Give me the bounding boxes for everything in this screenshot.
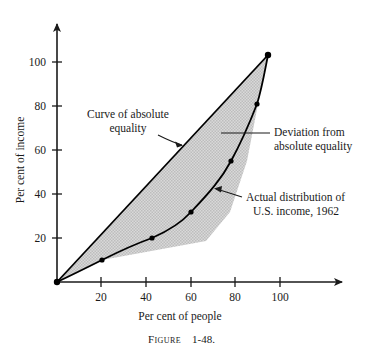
x-axis-tick-labels: 20 40 60 80 100: [95, 291, 289, 303]
figure-caption: Figure 1-48.: [148, 333, 215, 345]
deviation-annotation-line-2: absolute equality: [274, 140, 352, 153]
data-point-92: [254, 101, 259, 106]
x-tick-label-20: 20: [95, 291, 107, 303]
figure-caption-number: 1-48.: [192, 333, 215, 345]
actual-annotation-line-2: U.S. income, 1962: [253, 205, 339, 218]
data-point-20: [99, 257, 104, 262]
figure-caption-prefix: Figure: [148, 333, 181, 345]
data-point-57: [188, 209, 193, 214]
y-tick-label-60: 60: [35, 144, 47, 156]
y-axis-tick-labels: 20 40 60 80 100: [29, 56, 47, 244]
data-point-95: [265, 52, 271, 58]
x-tick-label-60: 60: [185, 291, 197, 303]
data-point-40: [149, 235, 154, 240]
x-tick-label-40: 40: [140, 291, 152, 303]
actual-annotation-line-1: Actual distribution of: [246, 191, 345, 203]
y-tick-label-20: 20: [35, 232, 47, 244]
deviation-annotation-line-1: Deviation from: [274, 126, 345, 138]
equality-annotation-line-1: Curve of absolute: [87, 108, 169, 120]
y-tick-label-80: 80: [35, 100, 47, 112]
y-tick-label-40: 40: [35, 188, 47, 200]
equality-annotation-line-2: equality: [109, 122, 146, 135]
y-axis-title: Per cent of income: [14, 117, 26, 204]
x-tick-label-100: 100: [271, 291, 289, 303]
data-point-79: [228, 158, 233, 163]
x-tick-label-80: 80: [229, 291, 241, 303]
figure-container: 20 40 60 80 100 20 40 60 80 100 Per cent…: [0, 0, 371, 354]
y-tick-label-100: 100: [29, 56, 47, 68]
lorenz-curve-chart: 20 40 60 80 100 20 40 60 80 100 Per cent…: [0, 0, 371, 354]
data-point-0: [54, 279, 60, 285]
x-axis-title: Per cent of people: [138, 310, 221, 323]
